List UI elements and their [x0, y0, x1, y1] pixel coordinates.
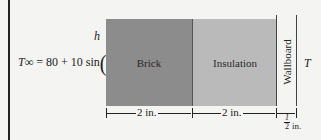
wallboard-label: Wallboard — [281, 39, 293, 85]
brick-label: Brick — [137, 57, 161, 69]
inner-temperature-label: T — [304, 56, 311, 71]
equation-lhs: T∞ — [18, 55, 33, 70]
wallboard-thickness-fraction: 1 2 — [284, 114, 290, 131]
equation-rhs: = 80 + 10 sin — [36, 55, 100, 70]
wallboard-left-edge — [276, 15, 277, 106]
insulation-layer: Insulation — [192, 19, 277, 106]
brick-layer: Brick — [106, 19, 192, 106]
insulation-label: Insulation — [213, 57, 257, 69]
fraction-denominator: 2 — [285, 123, 289, 131]
insulation-thickness-label: 2 in. — [221, 106, 243, 118]
wallboard-thickness-label: 1 2 in. — [283, 114, 301, 131]
brick-thickness-label: 2 in. — [136, 106, 158, 118]
heat-transfer-coefficient-label: h — [94, 29, 100, 44]
frame-border — [8, 0, 10, 140]
wallboard-right-edge — [296, 15, 297, 106]
wallboard-thickness-unit: in. — [292, 121, 301, 131]
